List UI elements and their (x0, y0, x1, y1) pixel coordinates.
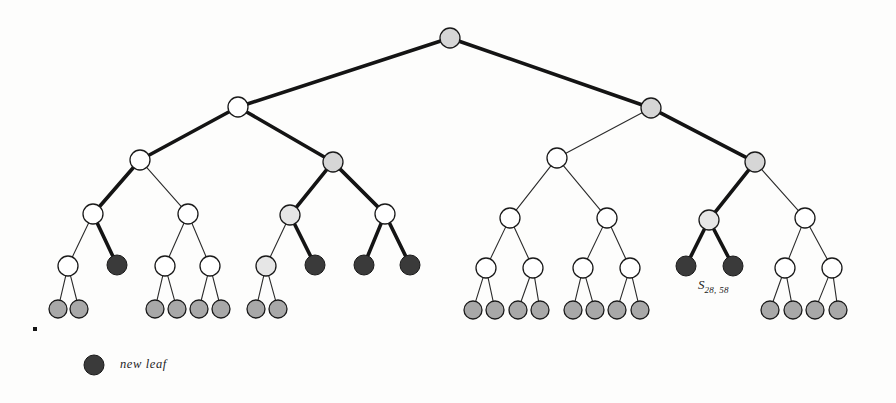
tree-node-F17 (761, 301, 779, 319)
tree-edge (270, 223, 286, 258)
tree-graphic (0, 0, 896, 403)
tree-edge (534, 277, 538, 302)
tree-node-L4m (676, 256, 696, 276)
tree-edge (659, 112, 747, 158)
tree-node-L2a (130, 150, 150, 170)
tree-edge (563, 165, 601, 211)
tree-edge (458, 41, 642, 105)
node-label-s2858: S28, 58 (698, 277, 729, 295)
tree-node-L4a (58, 256, 78, 276)
tree-edge (146, 167, 182, 208)
tree-edge (488, 277, 493, 302)
tree-node-L3f (597, 208, 617, 228)
tree-edge (516, 165, 552, 211)
tree-edge (367, 222, 381, 256)
tree-node-L4h (400, 255, 420, 275)
tree-edge (99, 167, 134, 207)
tree-edge (585, 277, 592, 303)
tree-node-L4f (305, 255, 325, 275)
tree-node-L4g (354, 255, 374, 275)
tree-node-F16 (631, 301, 649, 319)
legend-swatch-new-leaf (84, 355, 104, 375)
tree-node-L4d (200, 256, 220, 276)
tree-node-L1b (641, 98, 661, 118)
tree-node-L4j (523, 258, 543, 278)
tree-edge (201, 275, 208, 302)
tree-node-F20 (829, 301, 847, 319)
tree-node-F18 (784, 301, 802, 319)
tree-edge (475, 277, 483, 303)
tree-edge (258, 275, 264, 301)
tree-edge (773, 276, 782, 302)
tree-node-L4l (620, 258, 640, 278)
tree-edge (521, 276, 530, 302)
tree-node-F15 (608, 301, 626, 319)
tree-node-L3c (280, 205, 300, 225)
tree-edge (148, 111, 230, 155)
tree-node-F13 (564, 301, 582, 319)
node-label-subscript: 28, 58 (705, 285, 729, 295)
tree-node-F12 (531, 301, 549, 319)
tree-node-F19 (806, 301, 824, 319)
edge-layer (60, 41, 837, 303)
tree-edge (294, 223, 311, 257)
tree-node-L4o (775, 258, 795, 278)
tree-node-F10 (486, 301, 504, 319)
tree-diagram-figure: S28, 58 new leaf (0, 0, 896, 403)
tree-edge (761, 169, 799, 212)
tree-edge (70, 275, 77, 302)
tree-edge (587, 226, 603, 260)
tree-edge (167, 275, 174, 302)
tree-node-F05 (190, 300, 208, 318)
tree-node-L3h (795, 208, 815, 228)
tree-node-L4i (476, 258, 496, 278)
tree-edge (809, 226, 827, 260)
tree-edge (339, 168, 378, 207)
tree-node-F04 (168, 300, 186, 318)
tree-node-L3g (699, 210, 719, 230)
tree-edge (632, 277, 638, 302)
tree-node-F09 (464, 301, 482, 319)
tree-edge (246, 112, 325, 158)
tree-edge (192, 222, 207, 257)
tree-node-L4c (155, 256, 175, 276)
tree-edge (788, 226, 801, 259)
tree-edge (389, 222, 406, 257)
tree-node-L3b (178, 204, 198, 224)
tree-edge (490, 226, 506, 260)
node-layer (49, 28, 847, 375)
tree-node-L2c (547, 148, 567, 168)
tree-edge (268, 275, 275, 302)
tree-node-L2b (323, 152, 343, 172)
tree-node-L4n (723, 256, 743, 276)
tree-node-F02 (70, 300, 88, 318)
tree-edge (713, 228, 729, 258)
tree-node-F01 (49, 300, 67, 318)
tree-node-root (440, 28, 460, 48)
tree-node-F03 (146, 300, 164, 318)
stray-mark-dot (33, 327, 37, 331)
tree-edge (72, 222, 89, 258)
tree-edge (690, 228, 705, 258)
tree-node-L4b (107, 255, 127, 275)
tree-node-F06 (212, 300, 230, 318)
tree-edge (715, 169, 750, 213)
tree-node-F11 (509, 301, 527, 319)
tree-edge (514, 226, 529, 260)
tree-node-F14 (586, 301, 604, 319)
tree-edge (97, 222, 113, 257)
tree-edge (619, 277, 627, 303)
tree-node-L4p (822, 258, 842, 278)
tree-edge (833, 277, 837, 302)
tree-edge (169, 222, 185, 258)
tree-edge (157, 275, 163, 301)
tree-edge (296, 169, 328, 208)
tree-node-L2d (745, 152, 765, 172)
tree-node-L4k (573, 258, 593, 278)
tree-node-F07 (247, 300, 265, 318)
tree-node-F08 (269, 300, 287, 318)
legend-label-new-leaf: new leaf (120, 357, 167, 372)
tree-node-L3d (375, 204, 395, 224)
tree-edge (565, 112, 643, 154)
tree-edge (787, 277, 792, 302)
